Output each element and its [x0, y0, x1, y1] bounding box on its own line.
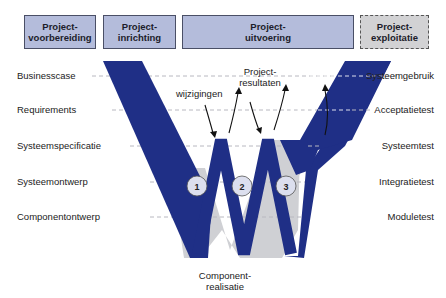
annotation-projectresultaten: Project- resultaten [230, 66, 290, 88]
level-right-acceptatietest: Acceptatietest [374, 104, 434, 115]
level-left-systeemspecificatie: Systeemspecificatie [17, 140, 101, 151]
level-right-systeemgebruik: Systeemgebruik [366, 70, 434, 81]
iteration-number-3: 3 [283, 182, 288, 192]
iteration-number-1: 1 [194, 182, 199, 192]
level-left-requirements: Requirements [17, 104, 76, 115]
level-right-moduletest: Moduletest [388, 211, 434, 222]
arrow-result-1 [229, 93, 238, 133]
annotation-wijzigingen: wijzigingen [176, 88, 222, 99]
level-left-businesscase: Businesscase [17, 70, 76, 81]
annotation-componentrealisatie: Component- realisatie [190, 270, 260, 292]
arrow-wijzigingen-2 [250, 102, 259, 130]
level-right-systeemtest: Systeemtest [382, 140, 434, 151]
annotation-componentrealisatie-line2: realisatie [190, 281, 260, 292]
annotation-projectresultaten-line2: resultaten [230, 77, 290, 88]
level-left-systeemontwerp: Systeemontwerp [17, 176, 88, 187]
level-left-componentontwerp: Componentontwerp [17, 211, 100, 222]
arrow-wijzigingen-1 [205, 105, 213, 133]
level-right-integratietest: Integratietest [379, 176, 434, 187]
iteration-number-2: 2 [239, 182, 244, 192]
annotation-componentrealisatie-line1: Component- [190, 270, 260, 281]
annotation-projectresultaten-line1: Project- [230, 66, 290, 77]
